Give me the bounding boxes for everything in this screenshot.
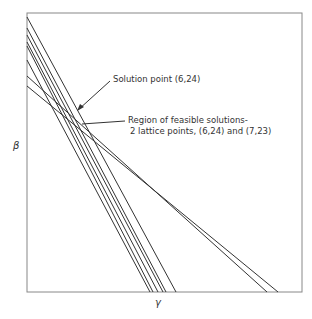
- constraint-line: [27, 60, 150, 292]
- region-leader: [82, 121, 125, 124]
- plot-frame: [27, 13, 302, 292]
- y-axis-label: β: [12, 140, 20, 151]
- region-label-line2: 2 lattice points, (6,24) and (7,23): [130, 126, 271, 136]
- constraint-line: [27, 28, 166, 292]
- region-label-line1: Region of feasible solutions-: [128, 115, 248, 125]
- constraint-lines: [27, 17, 278, 292]
- x-axis-label: γ: [155, 297, 162, 308]
- solution-point-leader: [78, 81, 110, 110]
- feasible-region-diagram: Solution point (6,24) Region of feasible…: [0, 0, 312, 319]
- constraint-line: [27, 17, 176, 292]
- solution-point-label: Solution point (6,24): [113, 74, 200, 84]
